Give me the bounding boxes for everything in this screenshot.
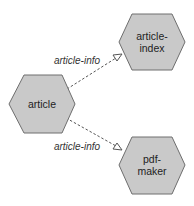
open-arrowhead-icon [113, 54, 122, 61]
node-pdf-maker[interactable]: pdf- maker [119, 137, 185, 194]
diagram-canvas: article-info article-info article articl… [0, 0, 194, 206]
node-article[interactable]: article [9, 75, 75, 133]
node-label-line-2: maker [137, 165, 167, 177]
node-label-line-1: article- [136, 30, 168, 42]
node-label-line-1: pdf- [143, 153, 162, 165]
node-label-line-2: index [139, 42, 165, 54]
edge-label: article-info [54, 141, 101, 152]
node-article-index[interactable]: article- index [119, 14, 185, 70]
node-label: article [28, 98, 56, 110]
open-arrowhead-icon [113, 143, 122, 150]
edge-label: article-info [54, 55, 101, 66]
